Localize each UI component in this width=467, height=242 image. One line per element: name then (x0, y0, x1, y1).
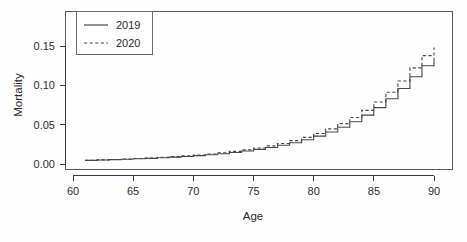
y-tick-label-1: 0.05 (34, 119, 55, 131)
legend-box (77, 12, 153, 55)
y-axis: 0.15 0.10 0.05 0.00 (34, 40, 66, 170)
y-tick-label-3: 0.15 (34, 40, 55, 52)
x-tick-label-5: 85 (368, 185, 380, 197)
y-tick-label-2: 0.10 (34, 79, 55, 91)
series-line-2019 (85, 58, 434, 161)
chart-legend: 2019 2020 (77, 12, 153, 55)
x-tick-label-4: 80 (308, 185, 320, 197)
y-tick-label-0: 0.00 (34, 158, 55, 170)
chart-canvas: 0.15 0.10 0.05 0.00 Mortality 60 65 70 7… (0, 0, 467, 242)
x-tick-label-3: 75 (247, 185, 259, 197)
x-tick-label-2: 70 (187, 185, 199, 197)
x-axis-title: Age (243, 210, 263, 222)
legend-label-2020: 2020 (116, 37, 140, 49)
x-tick-label-0: 60 (67, 185, 79, 197)
mortality-by-age-chart: 0.15 0.10 0.05 0.00 Mortality 60 65 70 7… (0, 0, 467, 242)
y-axis-title: Mortality (12, 73, 24, 117)
legend-label-2019: 2019 (116, 19, 140, 31)
x-tick-label-6: 90 (428, 185, 440, 197)
x-tick-label-1: 65 (127, 185, 139, 197)
x-axis: 60 65 70 75 80 85 90 (67, 176, 440, 198)
series-line-2020 (85, 48, 434, 161)
